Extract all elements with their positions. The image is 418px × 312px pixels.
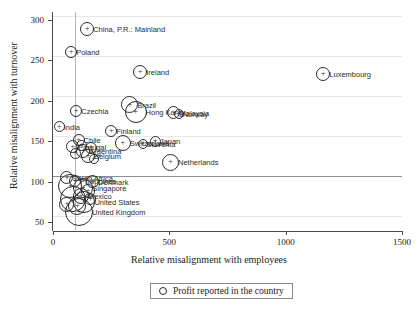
- x-tick-label: 500: [149, 237, 189, 247]
- y-tick-label: 100: [18, 177, 44, 187]
- x-tick: [286, 231, 287, 235]
- x-tick-label: 1000: [266, 237, 306, 247]
- x-tick-label: 0: [33, 237, 73, 247]
- data-point-plus-icon: +: [55, 123, 63, 131]
- x-tick: [402, 231, 403, 235]
- data-point-label: United Kingdom: [92, 208, 145, 217]
- plot-area: +China, P.R.: Mainland+Poland+Ireland+Lu…: [53, 12, 402, 230]
- y-tick-label: 150: [18, 136, 44, 146]
- legend-label: Profit reported in the country: [173, 286, 284, 296]
- y-axis-title: Relative misalignment with turnover: [8, 11, 19, 221]
- data-point-plus-icon: +: [83, 25, 91, 33]
- data-point-plus-icon: +: [73, 202, 81, 210]
- y-tick: [48, 182, 52, 183]
- y-tick-label: 250: [18, 55, 44, 65]
- y-tick-label: 200: [18, 96, 44, 106]
- data-point-plus-icon: +: [139, 140, 147, 148]
- legend-marker-icon: [159, 287, 167, 295]
- data-point-plus-icon: +: [175, 110, 183, 118]
- y-axis-line: [52, 12, 53, 231]
- data-point-plus-icon: +: [67, 48, 75, 56]
- legend: Profit reported in the country: [150, 283, 293, 299]
- gridline-300: [53, 16, 402, 17]
- data-point-plus-icon: +: [119, 139, 127, 147]
- data-point-label: Norway: [183, 110, 208, 119]
- y-tick: [48, 141, 52, 142]
- x-tick: [53, 231, 54, 235]
- data-point-plus-icon: +: [132, 108, 140, 116]
- x-axis-title: Relative misalignment with employees: [0, 254, 418, 265]
- data-point-plus-icon: +: [319, 70, 327, 78]
- y-tick: [48, 101, 52, 102]
- data-point-label: Poland: [76, 48, 99, 57]
- gridline-200: [53, 96, 402, 97]
- data-point-plus-icon: +: [136, 68, 144, 76]
- x-axis-line: [53, 231, 402, 232]
- y-tick-label: 300: [18, 15, 44, 25]
- data-point-label: Netherlands: [178, 158, 218, 167]
- scatter-chart: +China, P.R.: Mainland+Poland+Ireland+Lu…: [0, 0, 418, 312]
- y-tick-label: 50: [18, 217, 44, 227]
- data-point-plus-icon: +: [63, 200, 71, 208]
- data-point-plus-icon: +: [86, 195, 94, 203]
- data-point-label: United States: [94, 198, 139, 207]
- data-point-plus-icon: +: [87, 144, 95, 152]
- data-point-label: Slovenia: [147, 140, 176, 149]
- y-tick: [48, 222, 52, 223]
- x-tick: [169, 231, 170, 235]
- gridline-250: [53, 56, 402, 57]
- x-tick-label: 1500: [382, 237, 418, 247]
- data-point-label: Luxembourg: [329, 70, 371, 79]
- data-point-plus-icon: +: [71, 149, 79, 157]
- gridline-150: [53, 136, 402, 137]
- y-tick: [48, 60, 52, 61]
- data-point-label: Ireland: [146, 68, 169, 77]
- data-point-plus-icon: +: [90, 155, 98, 163]
- data-point-plus-icon: +: [166, 158, 174, 166]
- data-point-label: India: [64, 123, 80, 132]
- y-tick: [48, 20, 52, 21]
- data-point-plus-icon: +: [72, 107, 80, 115]
- data-point-label: China, P.R.: Mainland: [93, 25, 165, 34]
- data-point-label: Czechia: [81, 107, 108, 116]
- data-point-plus-icon: +: [107, 127, 115, 135]
